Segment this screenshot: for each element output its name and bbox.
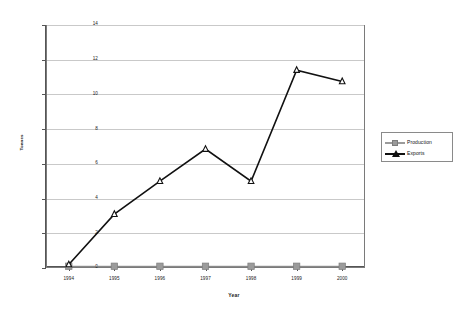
y-axis-tick-label: 6: [72, 161, 98, 166]
x-axis-tick-label: 1996: [142, 277, 178, 282]
legend-item-exports[interactable]: Exports: [385, 148, 449, 159]
exports-swatch-icon: [385, 149, 405, 158]
y-axis-tick-label: 2: [72, 231, 98, 236]
y-axis-tick-label: 10: [72, 92, 98, 97]
x-axis-tick-label: 1994: [51, 277, 87, 282]
y-axis-line: [45, 25, 46, 268]
x-axis-tick-mark: [342, 268, 343, 271]
x-axis-tick-mark: [206, 268, 207, 271]
legend-label-production: Production: [407, 140, 432, 145]
y-axis-title: Tonnes: [19, 134, 24, 150]
legend-label-exports: Exports: [407, 151, 425, 156]
production-swatch-icon: [385, 138, 405, 147]
x-axis-tick-mark: [114, 268, 115, 271]
x-axis-tick-mark: [160, 268, 161, 271]
x-axis-tick-mark: [251, 268, 252, 271]
x-axis-title: Year: [0, 292, 468, 298]
x-axis-tick-label: 1997: [188, 277, 224, 282]
y-axis-tick-label: 8: [72, 127, 98, 132]
y-axis-tick-label: 12: [72, 57, 98, 62]
y-axis-tick-label: 4: [72, 196, 98, 201]
x-axis-tick-label: 1995: [96, 277, 132, 282]
x-axis-tick-label: 2000: [324, 277, 360, 282]
y-axis-tick-label: 14: [72, 22, 98, 27]
y-axis-tick-mark: [42, 268, 46, 269]
x-axis-tick-label: 1998: [233, 277, 269, 282]
chart-container: 02468101214 Tonnes 199419951996199719981…: [0, 0, 468, 319]
legend-item-production[interactable]: Production: [385, 137, 449, 148]
y-axis-tick-label: 0: [72, 265, 98, 270]
x-axis-tick-label: 1999: [279, 277, 315, 282]
x-axis-tick-mark: [69, 268, 70, 271]
x-axis-tick-mark: [297, 268, 298, 271]
legend: Production Exports: [381, 132, 453, 162]
